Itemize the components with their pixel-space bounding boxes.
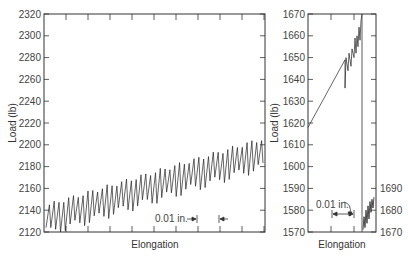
left-y-tick-label: 2160 bbox=[19, 183, 42, 194]
right-secondary-tick-label: 1670 bbox=[380, 227, 403, 238]
right-chart: 1570158015901600161016201630164016501660… bbox=[269, 9, 403, 251]
right-y-tick-label: 1590 bbox=[283, 183, 306, 194]
right-y-tick-label: 1570 bbox=[283, 227, 306, 238]
right-y-tick-label: 1640 bbox=[283, 74, 306, 85]
right-y-tick-label: 1610 bbox=[283, 139, 306, 150]
left-y-tick-label: 2320 bbox=[19, 9, 42, 20]
right-secondary-tick-label: 1680 bbox=[380, 205, 403, 216]
right-y-tick-label: 1650 bbox=[283, 52, 306, 63]
left-scale-annotation: 0.01 in. bbox=[155, 213, 188, 224]
right-load-trace bbox=[308, 14, 362, 127]
right-y-tick-label: 1580 bbox=[283, 205, 306, 216]
right-x-axis-title: Elongation bbox=[318, 239, 365, 250]
left-y-axis: 2120214021602180220022202240226022802300… bbox=[19, 9, 265, 238]
right-y-tick-label: 1620 bbox=[283, 118, 306, 129]
left-y-axis-title: Load (lb) bbox=[7, 103, 18, 142]
left-y-tick-label: 2120 bbox=[19, 227, 42, 238]
left-plot-frame bbox=[44, 14, 265, 232]
right-secondary-tick-label: 1690 bbox=[380, 183, 403, 194]
right-y-tick-label: 1600 bbox=[283, 161, 306, 172]
right-y-tick-label: 1670 bbox=[283, 9, 306, 20]
right-y-axis-title: Load (lb) bbox=[269, 103, 280, 142]
left-scale-arrows bbox=[187, 215, 228, 223]
left-x-axis-title: Elongation bbox=[131, 239, 178, 250]
left-x-ticks bbox=[66, 14, 264, 232]
left-y-tick-label: 2260 bbox=[19, 74, 42, 85]
left-y-tick-label: 2280 bbox=[19, 52, 42, 63]
right-y-tick-label: 1630 bbox=[283, 96, 306, 107]
left-y-tick-label: 2300 bbox=[19, 30, 42, 41]
left-y-tick-label: 2140 bbox=[19, 205, 42, 216]
right-scale-annotation: 0.01 in. bbox=[316, 199, 349, 210]
left-chart: 2120214021602180220022202240226022802300… bbox=[7, 9, 265, 251]
figure: 2120214021602180220022202240226022802300… bbox=[0, 0, 408, 259]
right-secondary-axis: 167016801690 bbox=[380, 183, 403, 238]
left-y-tick-label: 2240 bbox=[19, 96, 42, 107]
right-y-tick-label: 1660 bbox=[283, 30, 306, 41]
left-y-tick-label: 2200 bbox=[19, 139, 42, 150]
left-y-tick-label: 2180 bbox=[19, 161, 42, 172]
right-continuation-trace bbox=[363, 197, 374, 230]
left-y-tick-label: 2220 bbox=[19, 118, 42, 129]
